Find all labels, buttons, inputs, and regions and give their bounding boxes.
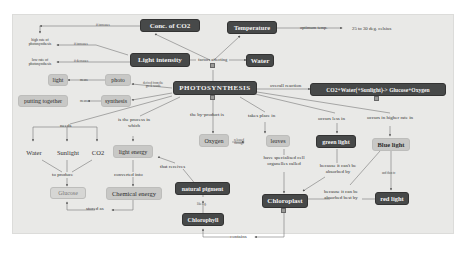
node-temperature[interactable]: Temperature [227, 21, 277, 34]
link-label-released-through: released through [232, 139, 246, 146]
node-red-light[interactable]: red light [375, 192, 409, 205]
node-high-rate[interactable]: high rate of photosynthesis [24, 38, 56, 47]
link-label-stored-as: stored as [86, 206, 104, 212]
node-light-energy[interactable]: light energy [113, 145, 153, 158]
link-label-optimum-temp: optimum temp. [300, 26, 328, 31]
link-label-converted-into: converted into [114, 172, 143, 178]
link-label-that-receives: that receives [160, 164, 185, 170]
link-label-process: is the process in which [114, 117, 154, 129]
node-water[interactable]: Water [22, 146, 46, 158]
node-glucose[interactable]: Glucose [50, 187, 86, 199]
link-label-by-product: the by-product is [190, 112, 224, 118]
node-oxygen[interactable]: Oxygen [199, 134, 229, 147]
link-label-overall-reaction: overall reaction [270, 83, 301, 89]
link-label-light-increases: if increases [74, 43, 88, 46]
node-conc-co2[interactable]: Conc. of CO2 [140, 19, 200, 32]
expand-handle-central[interactable] [210, 95, 215, 100]
link-label-occurs-less: occurs less in [318, 116, 345, 122]
link-label-and-then: and then to [382, 172, 395, 175]
expand-handle-chloroplast[interactable] [281, 208, 286, 213]
link-label-cant-absorbed: because it can't be absorbed by [316, 163, 360, 175]
node-photo[interactable]: photo [105, 74, 131, 86]
node-co2[interactable]: CO2 [88, 146, 108, 158]
node-green-light[interactable]: green light [316, 135, 356, 148]
link-label-occurs-higher: occurs in higher rate in [366, 115, 414, 121]
link-label-contains: contains [230, 234, 247, 240]
link-label-like-eg: like e.g. [197, 203, 207, 206]
node-blue-light[interactable]: Blue light [372, 138, 410, 151]
node-chemical-energy[interactable]: Chemical energy [106, 187, 162, 200]
link-label-needs: needs [60, 123, 71, 129]
node-water-factor[interactable]: Water [246, 54, 274, 67]
node-chlorophyll[interactable]: Chlorophyll [182, 213, 224, 226]
node-optimum-value[interactable]: 25 to 30 deg. celsius [352, 26, 391, 31]
node-synthesis[interactable]: synthesis [101, 95, 131, 107]
link-label-specialised: have specialised cell organelles called [260, 155, 308, 167]
link-label-absorbed-best: because it can be absorbed best by [318, 189, 364, 201]
link-label-derived-from: derived from the greek words [142, 82, 164, 89]
node-putting-together[interactable]: putting together [18, 95, 68, 107]
expand-handle-factors[interactable] [210, 63, 215, 68]
node-equation[interactable]: CO2+Water(+Sunlight)-> Glucose+Oxygen [310, 83, 446, 96]
expand-handle-equation[interactable] [374, 96, 379, 101]
link-label-means-photo: means [80, 79, 88, 82]
link-label-light-decreases: if decreases [74, 60, 88, 63]
node-light-intensity[interactable]: Light intensity [130, 53, 190, 67]
node-low-rate[interactable]: low rate of photosynthesis [24, 58, 56, 67]
link-label-means-synthesis: means [80, 100, 88, 103]
link-label-takes-place: takes place in [248, 113, 275, 119]
node-natural-pigment[interactable]: natural pigment [175, 182, 230, 195]
node-chloroplast[interactable]: Chloroplast [262, 194, 308, 208]
node-light[interactable]: light [48, 74, 68, 86]
link-label-to-produce: to produce [52, 172, 73, 178]
link-label-co2-increases: if increases [96, 24, 110, 27]
node-leaves[interactable]: leaves [266, 135, 290, 147]
node-sunlight[interactable]: Sunlight [52, 146, 84, 158]
node-photosynthesis[interactable]: PHOTOSYNTHESIS [173, 81, 257, 95]
